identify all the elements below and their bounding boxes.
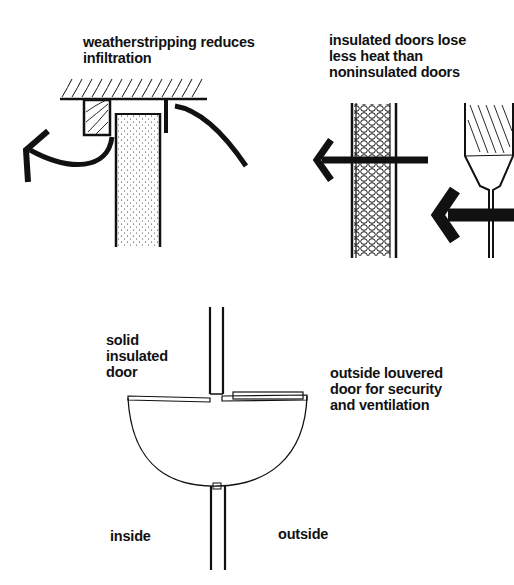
- insulated-doors-illustration: [317, 103, 514, 258]
- weatherstripping-caption: weatherstripping reduces infiltration: [83, 34, 255, 66]
- solid-door-label: solid insulated door: [106, 332, 168, 380]
- outside-label: outside: [278, 526, 328, 542]
- insulated-doors-caption: insulated doors lose less heat than noni…: [329, 32, 466, 80]
- weatherstripping-illustration: [26, 79, 246, 247]
- diagram-canvas: [0, 0, 514, 585]
- frame-hatching: [62, 79, 202, 97]
- inside-label: inside: [110, 528, 151, 544]
- louvered-door-label: outside louvered door for security and v…: [330, 365, 443, 413]
